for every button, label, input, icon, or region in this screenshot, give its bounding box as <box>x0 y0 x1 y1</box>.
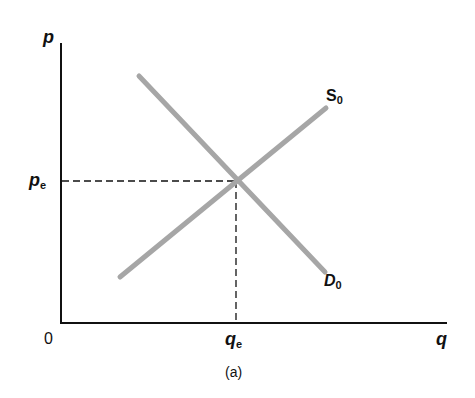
pe-main: p <box>29 170 40 190</box>
s0-main: S <box>326 87 337 104</box>
supply-curve <box>120 108 326 277</box>
y-axis-label: p <box>43 28 54 46</box>
x-axis-label: q <box>436 330 447 348</box>
qe-main: q <box>225 329 236 349</box>
price-equilibrium-label: pe <box>29 171 46 191</box>
qe-sub: e <box>236 338 242 350</box>
d0-main: D <box>324 272 336 289</box>
supply-label: S0 <box>326 88 343 106</box>
demand-label: D0 <box>324 273 342 291</box>
s0-sub: 0 <box>337 94 343 106</box>
quantity-equilibrium-label: qe <box>225 330 242 350</box>
figure-caption: (a) <box>225 365 242 379</box>
d0-sub: 0 <box>336 279 342 291</box>
pe-sub: e <box>40 179 46 191</box>
demand-curve <box>139 76 325 272</box>
origin-label: 0 <box>44 331 53 347</box>
